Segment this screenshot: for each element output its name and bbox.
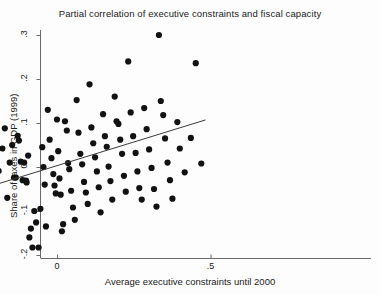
data-point (37, 206, 43, 212)
data-point (139, 196, 145, 202)
data-point (66, 166, 72, 172)
data-point (104, 144, 110, 150)
data-point (162, 135, 168, 141)
data-point (0, 168, 2, 174)
data-point (72, 217, 78, 223)
data-point (7, 160, 13, 166)
data-point (68, 188, 74, 194)
data-point (83, 189, 89, 195)
data-point (182, 169, 188, 175)
data-point (16, 138, 22, 144)
data-point (28, 226, 34, 232)
data-point (102, 133, 108, 139)
data-point (109, 196, 115, 202)
data-point (24, 179, 30, 185)
data-point (25, 152, 31, 158)
data-point (54, 116, 60, 122)
scatter-plot (0, 0, 380, 294)
data-point (42, 182, 48, 188)
data-point (134, 168, 140, 174)
data-point (64, 127, 70, 133)
data-point (77, 151, 83, 157)
data-point (56, 175, 62, 181)
data-point (50, 171, 56, 177)
data-point (132, 150, 138, 156)
data-point (158, 98, 164, 104)
data-point (130, 133, 136, 139)
data-point (39, 144, 45, 150)
data-point (151, 186, 157, 192)
data-point (51, 182, 57, 188)
data-point (121, 173, 127, 179)
data-point (35, 244, 41, 250)
data-point (79, 161, 85, 167)
data-points (0, 32, 204, 257)
data-point (86, 81, 92, 87)
data-point (117, 137, 123, 143)
data-point (193, 60, 199, 66)
data-point (47, 137, 53, 143)
data-point (167, 177, 173, 183)
data-point (177, 145, 183, 151)
data-point (75, 130, 81, 136)
data-point (21, 160, 27, 166)
data-point (45, 107, 51, 113)
data-point (160, 112, 166, 118)
data-point (164, 160, 170, 166)
data-point (188, 135, 194, 141)
data-point (107, 178, 113, 184)
data-point (94, 168, 100, 174)
data-point (31, 208, 37, 214)
data-point (85, 201, 91, 207)
data-point (4, 195, 10, 201)
data-point (96, 184, 102, 190)
data-point (88, 124, 94, 130)
axes (41, 30, 372, 259)
data-point (174, 119, 180, 125)
data-point (60, 221, 66, 227)
data-point (62, 118, 68, 124)
data-point (90, 140, 96, 146)
data-point (153, 204, 159, 210)
chart-figure: Partial correlation of executive constra… (0, 0, 380, 294)
data-point (43, 223, 49, 229)
data-point (97, 209, 103, 215)
data-point (0, 145, 5, 151)
data-point (105, 163, 111, 169)
data-point (125, 58, 131, 64)
data-point (58, 192, 64, 198)
x-axis-ticks (0, 255, 211, 259)
data-point (169, 196, 175, 202)
data-point (33, 219, 39, 225)
data-point (2, 125, 8, 131)
data-point (9, 142, 15, 148)
data-point (112, 94, 118, 100)
data-point (144, 126, 150, 132)
data-point (81, 179, 87, 185)
data-point (48, 155, 54, 161)
data-point (146, 146, 152, 152)
data-point (119, 151, 125, 157)
data-point (136, 185, 142, 191)
data-point (55, 148, 61, 154)
data-point (26, 234, 32, 240)
data-point (59, 228, 65, 234)
data-point (100, 111, 106, 117)
data-point (92, 154, 98, 160)
data-point (29, 244, 35, 250)
data-point (74, 97, 80, 103)
data-point (123, 189, 129, 195)
data-point (128, 109, 134, 115)
data-point (70, 204, 76, 210)
data-point (115, 121, 121, 127)
data-point (148, 165, 154, 171)
data-point (141, 105, 147, 111)
data-point (156, 32, 162, 38)
data-point (198, 160, 204, 166)
